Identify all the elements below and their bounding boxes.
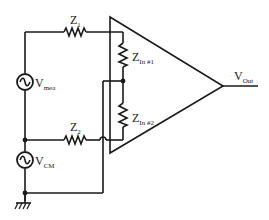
resistor-zin1 bbox=[119, 43, 127, 67]
resistor-z1 bbox=[64, 28, 86, 36]
label-zin2: ZIn #2 bbox=[132, 111, 154, 127]
label-z1: Z1 bbox=[70, 13, 81, 29]
ac-source-vmea bbox=[17, 74, 33, 90]
ground-icon bbox=[15, 193, 31, 209]
circuit-diagram: Z1 Z2 ZIn #1 ZIn #2 Vmea VCM VOut bbox=[0, 0, 269, 220]
resistor-z2 bbox=[64, 136, 86, 144]
amplifier-triangle bbox=[110, 17, 223, 153]
label-vcm: VCM bbox=[35, 154, 55, 170]
label-vmea: Vmea bbox=[35, 76, 56, 92]
resistor-zin2 bbox=[119, 103, 127, 127]
junction-dot-left-middle bbox=[23, 138, 28, 143]
label-zin1: ZIn #1 bbox=[132, 50, 154, 66]
ac-source-vcm bbox=[17, 152, 33, 168]
label-vout: VOut bbox=[234, 69, 253, 85]
label-z2: Z2 bbox=[70, 120, 81, 136]
